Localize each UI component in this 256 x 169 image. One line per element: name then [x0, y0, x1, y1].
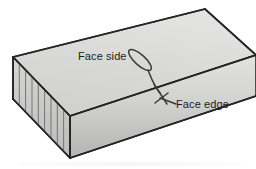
face-edge-label: Face edge — [176, 98, 229, 110]
bottom-scan-artifact — [18, 162, 242, 166]
face-side-label: Face side — [78, 50, 127, 62]
timber-board-illustration: Face side Face edge — [0, 0, 256, 169]
board-body — [13, 9, 256, 158]
figure-root: Face side Face edge — [0, 0, 256, 169]
